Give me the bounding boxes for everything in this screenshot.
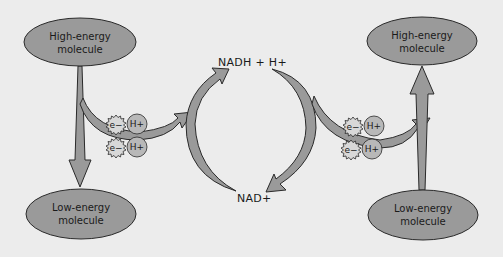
- nad-cycle: NADH + H+ NAD+: [186, 56, 316, 205]
- left-low-energy-label-1: Low-energy: [52, 202, 110, 213]
- svg-text:H+: H+: [365, 144, 379, 154]
- svg-text:e−: e−: [109, 143, 122, 153]
- left-high-energy-label-2: molecule: [57, 44, 103, 55]
- svg-text:H+: H+: [130, 142, 144, 152]
- nad-redox-cycle-diagram: High-energy molecule Low-energy molecule…: [0, 0, 503, 257]
- svg-text:H+: H+: [367, 121, 381, 131]
- right-high-energy-molecule: [367, 17, 477, 65]
- left-down-arrow: [69, 66, 91, 187]
- left-low-energy-label-2: molecule: [58, 215, 104, 226]
- right-low-energy-label-2: molecule: [400, 216, 446, 227]
- cycle-reduction-arrow: [186, 68, 236, 191]
- right-high-energy-label-1: High-energy: [391, 30, 453, 41]
- svg-text:e−: e−: [109, 120, 122, 130]
- cycle-oxidation-arrow: [266, 69, 316, 192]
- left-reaction: High-energy molecule Low-energy molecule…: [24, 18, 193, 239]
- left-high-energy-molecule: [24, 18, 136, 66]
- svg-text:H+: H+: [130, 119, 144, 129]
- right-low-energy-molecule: [368, 190, 478, 240]
- svg-text:e−: e−: [344, 145, 357, 155]
- left-high-energy-label-1: High-energy: [49, 31, 111, 42]
- nadh-label: NADH + H+: [218, 56, 287, 69]
- svg-text:e−: e−: [346, 122, 359, 132]
- right-low-energy-label-1: Low-energy: [394, 203, 452, 214]
- right-reaction: High-energy molecule Low-energy molecule…: [312, 17, 478, 240]
- left-low-energy-molecule: [26, 189, 136, 239]
- right-high-energy-label-2: molecule: [399, 43, 445, 54]
- nad-label: NAD+: [237, 192, 272, 205]
